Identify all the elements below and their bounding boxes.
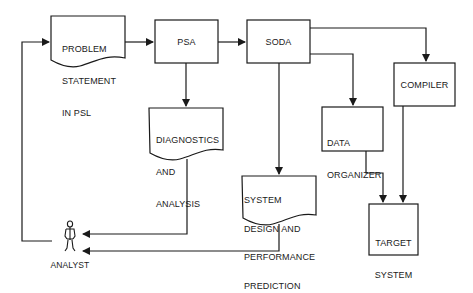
- target-system-line-1: TARGET: [369, 238, 418, 248]
- system-design-line-1: SYSTEM: [244, 196, 315, 206]
- edge-soda-to-compiler: [310, 28, 426, 61]
- problem-statement-line-1: PROBLEM: [62, 44, 116, 54]
- psa-label: PSA: [155, 37, 218, 47]
- diagnostics-line-1: DIAGNOSTICS: [156, 135, 219, 145]
- analyst-label: ANALYST: [44, 260, 96, 270]
- system-design-line-4: PREDICTION: [244, 282, 315, 292]
- diagnostics-label: DIAGNOSTICS AND ANALYSIS: [156, 115, 219, 219]
- problem-statement-label: PROBLEM STATEMENT IN PSL: [62, 24, 116, 128]
- problem-statement-line-3: IN PSL: [62, 108, 116, 118]
- analyst-figure-icon: [65, 221, 75, 251]
- data-organizer-line-1: DATA: [327, 138, 381, 148]
- edge-soda-to-data-organizer: [310, 54, 353, 105]
- data-organizer-line-2: ORGANIZER: [327, 170, 381, 180]
- diagnostics-line-3: ANALYSIS: [156, 199, 219, 209]
- soda-label: SODA: [247, 37, 310, 47]
- edge-analyst-to-problem-statement: [22, 42, 52, 241]
- compiler-label: COMPILER: [394, 80, 455, 90]
- target-system-line-2: SYSTEM: [369, 270, 418, 280]
- problem-statement-line-2: STATEMENT: [62, 76, 116, 86]
- system-design-line-3: PERFORMANCE: [244, 253, 315, 263]
- diagnostics-line-2: AND: [156, 167, 219, 177]
- system-design-line-2: DESIGN AND: [244, 225, 315, 235]
- system-design-label: SYSTEM DESIGN AND PERFORMANCE PREDICTION: [244, 177, 315, 293]
- target-system-label: TARGET SYSTEM: [369, 218, 418, 290]
- data-organizer-label: DATA ORGANIZER: [327, 118, 381, 190]
